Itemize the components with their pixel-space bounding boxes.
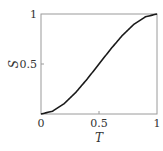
- y-axis-label: S: [7, 60, 21, 68]
- y-tick-label-1: 1: [30, 8, 37, 21]
- chart: 0 0.5 1 1 0.5 T S: [0, 0, 163, 151]
- s-curve-line: [41, 14, 157, 114]
- x-tick-label-0.5: 0.5: [90, 117, 108, 130]
- x-tick-label-0: 0: [38, 117, 45, 130]
- x-axis-label: T: [95, 131, 104, 145]
- y-tick-label-0.5: 0.5: [20, 58, 38, 71]
- x-tick-label-1: 1: [154, 117, 161, 130]
